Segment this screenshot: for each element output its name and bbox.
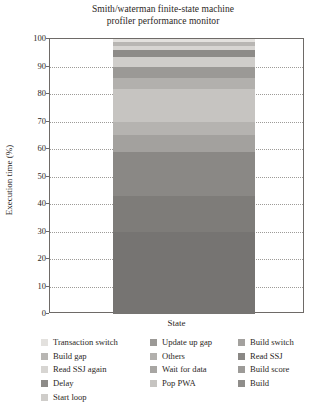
y-tick-label: 20 xyxy=(0,254,46,263)
plot-area xyxy=(49,38,304,313)
y-tick-label: 80 xyxy=(0,89,46,98)
chart-title: Smith/waterman finite-state machine prof… xyxy=(0,4,326,27)
bar-segment[interactable] xyxy=(113,152,255,196)
bar-segment[interactable] xyxy=(113,135,255,152)
y-tick-label: 40 xyxy=(0,199,46,208)
x-axis-label: State xyxy=(49,318,304,328)
legend-item[interactable]: Start loop xyxy=(41,390,118,404)
chart-title-line-1: Smith/waterman finite-state machine xyxy=(0,4,326,16)
legend-item-label: Pop PWA xyxy=(162,379,196,388)
legend-item-label: Update up gap xyxy=(162,338,212,347)
legend-item-label: Delay xyxy=(53,379,74,388)
legend-item[interactable]: Build gap xyxy=(41,350,118,364)
legend-item-label: Build switch xyxy=(250,338,294,347)
legend-item[interactable]: Delay xyxy=(41,377,118,391)
legend-item-label: Transaction switch xyxy=(53,338,118,347)
legend-item-label: Read SSJ again xyxy=(53,365,106,374)
y-tick-label: 70 xyxy=(0,117,46,126)
legend-swatch-icon xyxy=(150,366,157,373)
legend-item-label: Build gap xyxy=(53,352,87,361)
y-tick-label: 100 xyxy=(0,34,46,43)
legend-swatch-icon xyxy=(150,380,157,387)
bar-segment[interactable] xyxy=(113,57,255,67)
legend-item[interactable]: Build switch xyxy=(238,336,294,350)
legend-column-1: Transaction switchBuild gapRead SSJ agai… xyxy=(41,336,118,404)
legend-item[interactable]: Wait for data xyxy=(150,363,212,377)
y-tick-label: 50 xyxy=(0,172,46,181)
legend-swatch-icon xyxy=(238,353,245,360)
legend-column-3: Build switchRead SSJBuild scoreBuild xyxy=(238,336,294,390)
legend-swatch-icon xyxy=(41,353,48,360)
legend-item-label: Start loop xyxy=(53,393,87,402)
legend-item-label: Build score xyxy=(250,365,289,374)
bar-segment[interactable] xyxy=(113,67,255,78)
legend-item-label: Build xyxy=(250,379,269,388)
chart-container: Smith/waterman finite-state machine prof… xyxy=(0,0,326,416)
legend-item[interactable]: Read SSJ again xyxy=(41,363,118,377)
bar-segment[interactable] xyxy=(113,122,255,136)
legend-item[interactable]: Pop PWA xyxy=(150,377,212,391)
legend-item[interactable]: Build score xyxy=(238,363,294,377)
legend-swatch-icon xyxy=(150,353,157,360)
y-tick-label: 30 xyxy=(0,227,46,236)
legend-swatch-icon xyxy=(41,366,48,373)
y-tick-label: 90 xyxy=(0,62,46,71)
legend-swatch-icon xyxy=(41,380,48,387)
legend-swatch-icon xyxy=(238,366,245,373)
legend-item[interactable]: Update up gap xyxy=(150,336,212,350)
y-tick-label: 60 xyxy=(0,144,46,153)
legend-swatch-icon xyxy=(41,339,48,346)
y-tick-label: 10 xyxy=(0,282,46,291)
chart-title-line-2: profiler performance monitor xyxy=(0,16,326,28)
legend-item-label: Wait for data xyxy=(162,365,207,374)
y-axis-label: Execution time (%) xyxy=(4,120,14,240)
legend-item[interactable]: Others xyxy=(150,350,212,364)
bar-segment[interactable] xyxy=(113,196,255,232)
bar-segment[interactable] xyxy=(113,50,255,57)
bar-segment[interactable] xyxy=(113,89,255,122)
legend-item[interactable]: Transaction switch xyxy=(41,336,118,350)
legend-item-label: Others xyxy=(162,352,185,361)
legend-item[interactable]: Read SSJ xyxy=(238,350,294,364)
legend-swatch-icon xyxy=(41,394,48,401)
y-tick-label: 0 xyxy=(0,309,46,318)
stacked-bar[interactable] xyxy=(113,39,255,314)
legend: Transaction switchBuild gapRead SSJ agai… xyxy=(0,336,326,414)
legend-item-label: Read SSJ xyxy=(250,352,283,361)
legend-swatch-icon xyxy=(238,339,245,346)
bar-segment[interactable] xyxy=(113,78,255,89)
legend-swatch-icon xyxy=(238,380,245,387)
bar-segment[interactable] xyxy=(113,232,255,315)
legend-swatch-icon xyxy=(150,339,157,346)
legend-item[interactable]: Build xyxy=(238,377,294,391)
legend-column-2: Update up gapOthersWait for dataPop PWA xyxy=(150,336,212,390)
y-tick-mark xyxy=(46,313,49,314)
